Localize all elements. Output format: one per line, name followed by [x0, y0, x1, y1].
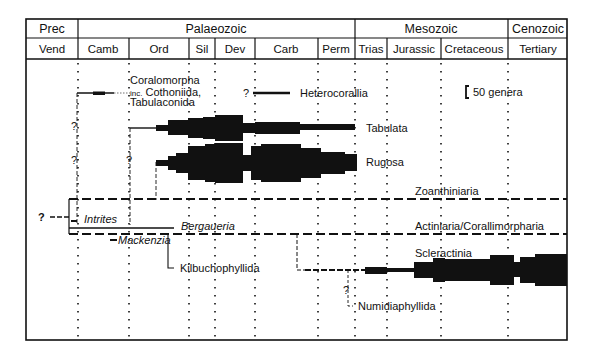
period-label-jurassic: Jurassic — [393, 43, 435, 55]
actiniaria-label: Actiniaria/Corallimorpharia — [415, 220, 545, 232]
period-label-sil: Sil — [196, 43, 209, 55]
era-label-prec: Prec — [39, 22, 65, 36]
coralomorpha-label: Coralomorpha — [130, 74, 201, 86]
scale-bar-label: 50 genera — [473, 86, 523, 98]
question-mark: ? — [343, 284, 349, 296]
intrites-label: Intrites — [84, 213, 118, 225]
numidiaphyllida-label: Numidiaphyllida — [358, 300, 437, 312]
era-label-mesozoic: Mesozoic — [405, 22, 458, 36]
period-label-dev: Dev — [225, 43, 246, 55]
period-label-trias: Trias — [358, 43, 383, 55]
question-mark: ? — [38, 211, 45, 223]
mackenzia-label: Mackenzia — [118, 234, 171, 246]
scleractinia-range — [297, 234, 567, 286]
bergaueria-label: Bergaueria — [181, 220, 235, 232]
question-mark: ? — [71, 154, 77, 166]
scale-bar: 50 genera — [466, 86, 523, 98]
era-label-cenozoic: Cenozoic — [512, 22, 564, 36]
cnidarian-range-diagram: Prec Palaeozoic Mesozoic Cenozoic Vend C… — [0, 0, 597, 360]
scleractinia-label: Scleractinia — [415, 247, 473, 259]
rugosa-range — [156, 143, 357, 200]
period-label-camb: Camb — [88, 43, 119, 55]
period-label-vend: Vend — [39, 43, 65, 55]
tabulata-label: Tabulata — [366, 122, 408, 134]
rugosa-label: Rugosa — [366, 156, 405, 168]
period-label-ord: Ord — [149, 43, 168, 55]
coralomorpha-range — [77, 92, 130, 226]
question-mark: ? — [126, 154, 132, 166]
period-label-perm: Perm — [322, 43, 349, 55]
period-label-tertiary: Tertiary — [519, 43, 557, 55]
question-mark: ? — [71, 120, 77, 132]
period-label-cretaceous: Cretaceous — [445, 43, 504, 55]
coralomorpha-sublabel-2: Tabulaconida — [130, 96, 196, 108]
heterocorallia-label: Heterocorallia — [300, 87, 369, 99]
zoantharia-label: Zoanthiniaria — [415, 185, 479, 197]
period-label-carb: Carb — [274, 43, 299, 55]
question-mark: ? — [243, 87, 249, 99]
kilbuchophyllida-label: Kilbuchophyllida — [180, 262, 260, 274]
era-label-palaeozoic: Palaeozoic — [185, 22, 246, 36]
